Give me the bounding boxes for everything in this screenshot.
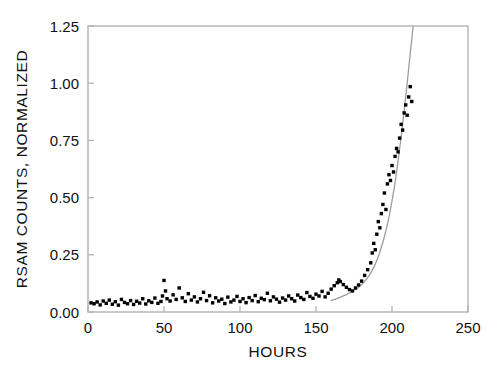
data-point <box>302 298 305 301</box>
x-axis-tick-labels: 050100150200250 <box>84 319 481 336</box>
data-point <box>241 297 244 300</box>
data-point <box>117 303 120 306</box>
data-point <box>281 296 284 299</box>
data-point <box>205 299 208 302</box>
data-point <box>296 293 299 296</box>
data-point <box>196 300 199 303</box>
data-point <box>150 301 153 304</box>
data-point <box>266 292 269 295</box>
data-point <box>168 299 171 302</box>
y-axis-tick-labels: 0.000.250.500.751.001.25 <box>50 18 79 321</box>
data-point <box>402 111 405 114</box>
data-point <box>384 208 387 211</box>
data-point <box>108 298 111 301</box>
data-point <box>184 300 187 303</box>
data-point <box>401 128 404 131</box>
data-point <box>345 286 348 289</box>
data-point <box>220 297 223 300</box>
data-point <box>326 292 329 295</box>
data-point <box>156 302 159 305</box>
data-point <box>396 150 399 153</box>
data-point <box>165 297 168 300</box>
data-point <box>308 295 311 298</box>
x-tick-label: 150 <box>303 319 328 336</box>
plot-background <box>88 26 468 312</box>
data-point <box>123 301 126 304</box>
data-point <box>244 301 247 304</box>
data-point <box>162 279 165 282</box>
data-point <box>269 299 272 302</box>
data-point <box>299 296 302 299</box>
data-point <box>161 294 164 297</box>
data-point <box>287 294 290 297</box>
data-point <box>380 212 383 215</box>
data-point <box>89 301 92 304</box>
data-point <box>164 289 167 292</box>
x-tick-label: 100 <box>227 319 252 336</box>
y-axis-title: RSAM COUNTS, NORMALIZED <box>13 50 30 289</box>
data-point <box>395 147 398 150</box>
data-point <box>144 302 147 305</box>
data-point <box>290 297 293 300</box>
data-point <box>374 248 377 251</box>
data-point <box>229 300 232 303</box>
data-point <box>351 289 354 292</box>
data-point <box>407 95 410 98</box>
x-tick-label: 200 <box>379 319 404 336</box>
data-point <box>238 300 241 303</box>
data-point <box>208 294 211 297</box>
data-point <box>98 303 101 306</box>
x-axis-title: HOURS <box>249 343 308 360</box>
data-point <box>226 295 229 298</box>
data-point <box>190 298 193 301</box>
data-point <box>398 136 401 139</box>
data-point <box>147 299 150 302</box>
y-tick-label: 0.50 <box>50 189 79 206</box>
data-point <box>174 298 177 301</box>
data-point <box>247 296 250 299</box>
data-point <box>354 286 357 289</box>
data-point <box>406 114 409 117</box>
data-point <box>392 170 395 173</box>
y-tick-label: 0.75 <box>50 132 79 149</box>
data-point <box>187 292 190 295</box>
data-point <box>92 302 95 305</box>
data-point <box>372 242 375 245</box>
data-point <box>377 220 380 223</box>
data-point <box>171 293 174 296</box>
data-point <box>181 296 184 299</box>
data-point <box>217 299 220 302</box>
data-point <box>357 283 360 286</box>
data-point <box>366 268 369 271</box>
data-point <box>333 284 336 287</box>
data-point <box>293 299 296 302</box>
data-point <box>390 164 393 167</box>
x-tick-label: 250 <box>455 319 480 336</box>
data-point <box>223 302 226 305</box>
data-point <box>250 299 253 302</box>
data-point <box>348 288 351 291</box>
data-point <box>410 100 413 103</box>
data-point <box>111 303 114 306</box>
chart-figure: 050100150200250 0.000.250.500.751.001.25… <box>0 0 500 372</box>
data-point <box>102 299 105 302</box>
data-point <box>381 203 384 206</box>
data-point <box>314 292 317 295</box>
scatter-plot-svg: 050100150200250 0.000.250.500.751.001.25… <box>0 0 500 372</box>
data-point <box>387 173 390 176</box>
data-point <box>323 295 326 298</box>
data-point <box>211 301 214 304</box>
data-point <box>159 300 162 303</box>
y-tick-label: 1.25 <box>50 18 79 35</box>
data-point <box>126 302 129 305</box>
y-tick-label: 1.00 <box>50 75 79 92</box>
data-point <box>275 297 278 300</box>
data-point <box>360 279 363 282</box>
data-point <box>153 296 156 299</box>
data-point <box>330 287 333 290</box>
x-tick-label: 50 <box>156 319 173 336</box>
data-point <box>284 298 287 301</box>
data-point <box>138 301 141 304</box>
data-point <box>178 286 181 289</box>
data-point <box>199 297 202 300</box>
